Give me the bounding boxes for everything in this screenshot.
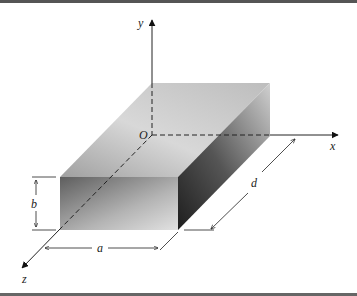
box-front-face: [60, 177, 178, 230]
origin-label: O: [139, 128, 148, 142]
b-dimension-label: b: [31, 197, 37, 211]
z-axis: [22, 229, 60, 268]
x-axis-label: x: [329, 139, 336, 153]
y-axis-label: y: [137, 16, 144, 30]
box-diagram: y O x z b a d: [0, 0, 357, 296]
z-axis-label: z: [21, 272, 27, 286]
d-dimension-line-upper: [262, 139, 295, 172]
d-dimension-line-lower: [211, 193, 248, 229]
top-border: [0, 0, 357, 3]
diagram-frame: y O x z b a d: [0, 0, 357, 296]
d-dimension-label: d: [251, 176, 258, 190]
a-dimension-label: a: [97, 241, 103, 255]
a-extension-right: [160, 232, 178, 250]
